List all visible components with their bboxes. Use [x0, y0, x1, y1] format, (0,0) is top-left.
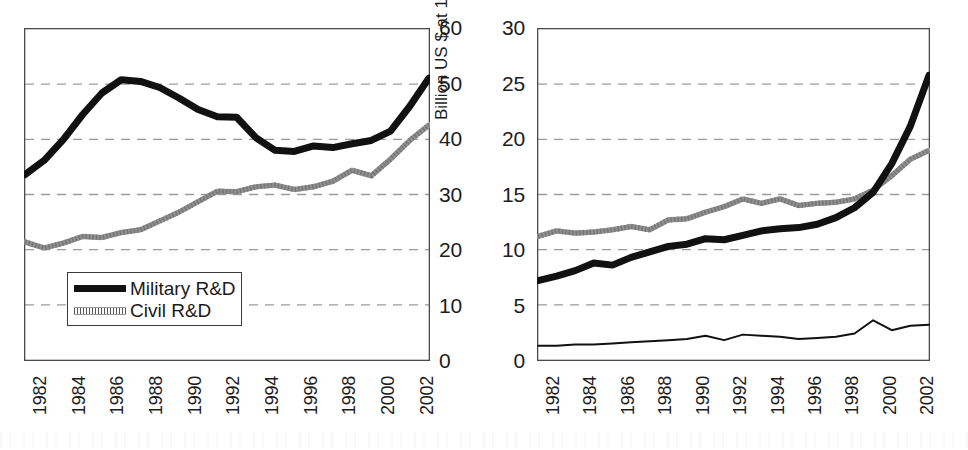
x-tick-label: 1982: [544, 376, 562, 415]
y-tick-label: 25: [484, 73, 525, 94]
legend-label-military: Military R&D: [130, 279, 236, 298]
x-tick-label: 1996: [302, 376, 320, 415]
legend-item-military[interactable]: Military R&D: [72, 277, 235, 299]
y-tick-label: 20: [484, 128, 525, 149]
y-tick-label: 0: [439, 350, 450, 371]
y-tick-label: 10: [439, 295, 462, 316]
x-tick-label: 1988: [656, 376, 674, 415]
x-tick-label: 1984: [70, 376, 88, 415]
y-tick-label: 0: [484, 350, 525, 371]
plot-area-right: [537, 28, 930, 361]
x-tick-label: 1994: [769, 376, 787, 415]
x-tick-label: 2000: [379, 376, 397, 415]
y-tick-label: 5: [484, 295, 525, 316]
x-tick-label: 1986: [619, 376, 637, 415]
x-tick-label: 1992: [224, 376, 242, 415]
scan-artifact-strip: [0, 432, 968, 448]
figure-root: 0102030405060 19821984198619881990199219…: [0, 0, 968, 450]
x-tick-label: 1982: [31, 376, 49, 415]
y-tick-label: 30: [439, 184, 462, 205]
x-tick-label: 1990: [694, 376, 712, 415]
y-axis-title: Billion US $ at 1996-prices: [433, 0, 450, 120]
x-tick-label: 2002: [418, 376, 436, 415]
x-tick-label: 1998: [843, 376, 861, 415]
y-tick-label: 10: [484, 239, 525, 260]
y-tick-label: 40: [439, 128, 462, 149]
x-tick-label: 1990: [186, 376, 204, 415]
chart-panel-right: 051015202530 198219841986198819901992199…: [484, 0, 968, 450]
x-tick-label: 2002: [918, 376, 936, 415]
x-tick-label: 1994: [263, 376, 281, 415]
x-tick-label: 1986: [108, 376, 126, 415]
x-tick-label: 1988: [147, 376, 165, 415]
legend-left[interactable]: Military R&D Civil R&D: [67, 272, 242, 326]
legend-item-civil[interactable]: Civil R&D: [72, 299, 235, 321]
line-chart-right: [537, 28, 930, 361]
chart-panel-left: 0102030405060 19821984198619881990199219…: [0, 0, 484, 450]
x-tick-label: 1992: [731, 376, 749, 415]
thick-line-key-icon: [72, 281, 128, 295]
dotted-line-key-icon: [72, 303, 128, 317]
x-tick-label: 2000: [881, 376, 899, 415]
x-tick-label: 1998: [340, 376, 358, 415]
x-tick-label: 1996: [806, 376, 824, 415]
x-tick-label: 1984: [581, 376, 599, 415]
legend-label-civil: Civil R&D: [130, 301, 211, 320]
y-tick-label: 30: [484, 17, 525, 38]
y-tick-label: 20: [439, 239, 462, 260]
y-tick-label: 15: [484, 184, 525, 205]
